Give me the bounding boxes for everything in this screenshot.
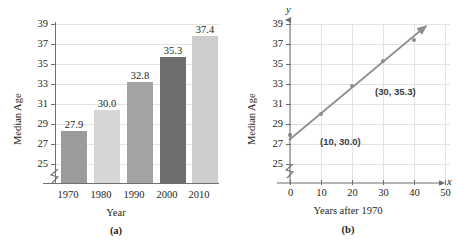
ytick-label-31: 31 xyxy=(257,99,283,110)
scatter-chart-x-axis-line xyxy=(276,178,451,188)
scatter-chart-y-axis-title: Median Age xyxy=(246,93,257,145)
ytick-label-29: 29 xyxy=(257,119,283,130)
xtick-label-40: 40 xyxy=(400,188,429,199)
ytick-mark-25 xyxy=(286,164,291,165)
ytick-mark-29 xyxy=(51,124,56,125)
bar-2000 xyxy=(160,57,186,183)
ytick-label-29: 29 xyxy=(22,119,48,130)
scatter-chart-plot-area: (10, 30.0) (30, 35.3) xyxy=(290,24,450,183)
annotation-point-30: (30, 35.3) xyxy=(375,86,416,97)
data-point-40 xyxy=(412,38,416,42)
ytick-label-35: 35 xyxy=(257,59,283,70)
xtick-mark-40 xyxy=(414,180,415,185)
bar-1990 xyxy=(127,82,153,183)
figure-container: Median Age 27.9 30.0 32.8 35.3 37.4 xyxy=(0,0,464,242)
ytick-mark-31 xyxy=(286,104,291,105)
ytick-mark-31 xyxy=(51,104,56,105)
scatter-chart-y-axis-line xyxy=(286,14,295,186)
bar-2010 xyxy=(192,36,218,183)
xtick-label-0: 0 xyxy=(276,188,305,199)
ytick-mark-35 xyxy=(286,64,291,65)
ytick-label-33: 33 xyxy=(22,79,48,90)
xtick-mark-20 xyxy=(352,180,353,185)
scatter-chart-x-axis-title: Years after 1970 xyxy=(232,205,464,216)
ytick-mark-33 xyxy=(51,84,56,85)
xtick-label-20: 20 xyxy=(338,188,367,199)
bar-1980 xyxy=(94,110,120,183)
ytick-label-27: 27 xyxy=(257,139,283,150)
ytick-mark-33 xyxy=(286,84,291,85)
ytick-label-25: 25 xyxy=(257,159,283,170)
bar-value-2010: 37.4 xyxy=(185,24,225,35)
bar-value-1980: 30.0 xyxy=(87,98,127,109)
xtick-label-50: 50 xyxy=(431,188,460,199)
xtick-label-10: 10 xyxy=(307,188,336,199)
ytick-mark-37 xyxy=(286,44,291,45)
data-point-30 xyxy=(381,59,385,63)
ytick-label-27: 27 xyxy=(22,139,48,150)
ytick-mark-27 xyxy=(286,144,291,145)
ytick-label-37: 37 xyxy=(257,39,283,50)
xtick-label-2010: 2010 xyxy=(179,190,219,201)
ytick-label-25: 25 xyxy=(22,159,48,170)
bar-chart-panel: Median Age 27.9 30.0 32.8 35.3 37.4 xyxy=(0,0,232,242)
annotation-point-10: (10, 30.0) xyxy=(320,136,361,147)
scatter-chart-panel: Median Age y x xyxy=(232,0,464,242)
trendline xyxy=(290,24,450,183)
ytick-label-31: 31 xyxy=(22,99,48,110)
bar-chart-x-axis-title: Year xyxy=(0,207,232,218)
bar-1970 xyxy=(61,131,87,183)
panel-b-caption: (b) xyxy=(232,224,464,235)
ytick-mark-35 xyxy=(51,64,56,65)
bar-value-1970: 27.9 xyxy=(54,119,94,130)
bar-value-2000: 35.3 xyxy=(153,45,193,56)
bar-value-1990: 32.8 xyxy=(120,70,160,81)
ytick-mark-39 xyxy=(286,24,291,25)
ytick-mark-25 xyxy=(51,164,56,165)
ytick-mark-29 xyxy=(286,124,291,125)
xtick-mark-50 xyxy=(445,180,446,185)
panel-a-caption: (a) xyxy=(0,225,232,236)
bar-chart-x-axis-line xyxy=(43,183,219,184)
bar-chart-axis-break-icon xyxy=(49,168,63,184)
data-point-20 xyxy=(350,84,354,88)
xtick-mark-30 xyxy=(383,180,384,185)
data-point-10 xyxy=(319,112,323,116)
ytick-label-39: 39 xyxy=(257,19,283,30)
xtick-mark-10 xyxy=(321,180,322,185)
ytick-mark-37 xyxy=(51,44,56,45)
ytick-mark-27 xyxy=(51,144,56,145)
xtick-label-30: 30 xyxy=(369,188,398,199)
ytick-label-37: 37 xyxy=(22,39,48,50)
bar-chart-y-axis-line xyxy=(55,22,56,183)
bar-chart-plot-area: 27.9 30.0 32.8 35.3 37.4 xyxy=(56,24,219,183)
ytick-mark-39 xyxy=(51,24,56,25)
ytick-label-39: 39 xyxy=(22,19,48,30)
ytick-label-33: 33 xyxy=(257,79,283,90)
ytick-label-35: 35 xyxy=(22,59,48,70)
scatter-chart-axis-break-icon xyxy=(284,163,298,179)
xtick-mark-0 xyxy=(290,180,291,185)
